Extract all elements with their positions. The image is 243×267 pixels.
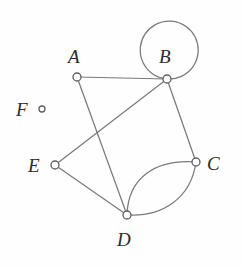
edge-e-d (55, 165, 127, 215)
edge-d-c-upper (127, 162, 196, 215)
vertex-label-e: E (27, 155, 40, 176)
vertex-label-f: F (15, 99, 28, 120)
vertex-label-b: B (159, 46, 171, 67)
edge-a-d (77, 77, 127, 215)
edge-a-b (77, 77, 167, 79)
graph-canvas: A B C D E F (0, 0, 243, 267)
edge-d-c-lower (127, 162, 196, 215)
edge-b-e (55, 79, 167, 165)
vertex-label-d: D (116, 229, 131, 250)
label-layer: A B C D E F (15, 46, 220, 250)
edge-b-c (167, 79, 196, 162)
graph-figure: A B C D E F (0, 0, 243, 267)
vertex-layer (39, 73, 200, 219)
vertex-label-c: C (207, 153, 220, 174)
vertex-f[interactable] (39, 106, 45, 112)
vertex-e[interactable] (51, 161, 59, 169)
vertex-a[interactable] (73, 73, 81, 81)
vertex-c[interactable] (192, 158, 200, 166)
vertex-label-a: A (66, 46, 80, 67)
vertex-d[interactable] (123, 211, 131, 219)
vertex-b[interactable] (163, 75, 171, 83)
